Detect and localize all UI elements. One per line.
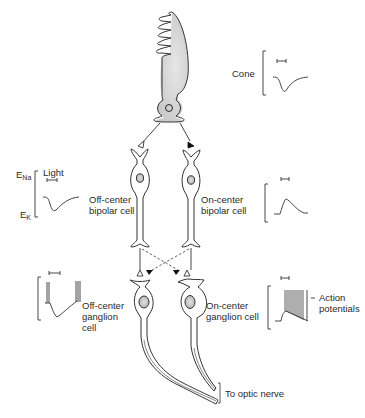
off-bipolar-label: Off-center bipolar cell <box>89 194 134 216</box>
filled-synapse-icon <box>188 142 194 148</box>
on-ganglion-response-trace <box>268 276 315 329</box>
optic-nerve-label: To optic nerve <box>225 388 284 399</box>
on-bipolar-response-trace <box>265 177 308 222</box>
e-na-sub: Na <box>22 174 31 181</box>
on-ganglion-cell <box>178 279 216 391</box>
cone-label: Cone <box>232 68 255 79</box>
open-synapse-icon <box>138 141 144 148</box>
action-potentials-label: Action potentials <box>319 292 360 314</box>
on-bipolar-cell <box>182 150 200 247</box>
open-synapse-icon <box>184 270 190 276</box>
cone-cell <box>154 12 188 122</box>
e-k-label: EK <box>20 209 31 223</box>
cone-to-on-bipolar <box>180 123 190 141</box>
e-na-label: ENa <box>16 169 31 183</box>
light-label: Light <box>43 167 64 178</box>
crossed-dashed-connection <box>152 249 189 270</box>
filled-synapse-icon <box>146 270 153 275</box>
filled-synapse-icon <box>173 270 180 275</box>
off-ganglion-response-trace <box>38 271 80 320</box>
on-bipolar-label: On-center bipolar cell <box>201 194 246 216</box>
off-ganglion-label: Off-center ganglion cell <box>82 300 124 333</box>
on-ganglion-label: On-center ganglion cell <box>206 300 259 322</box>
crossed-dashed-connection <box>142 249 178 270</box>
retina-circuit-diagram <box>0 0 365 418</box>
cone-to-off-bipolar <box>142 123 160 143</box>
e-k-sub: K <box>26 214 31 221</box>
cone-response-trace <box>263 51 308 95</box>
open-synapse-icon <box>137 270 143 276</box>
